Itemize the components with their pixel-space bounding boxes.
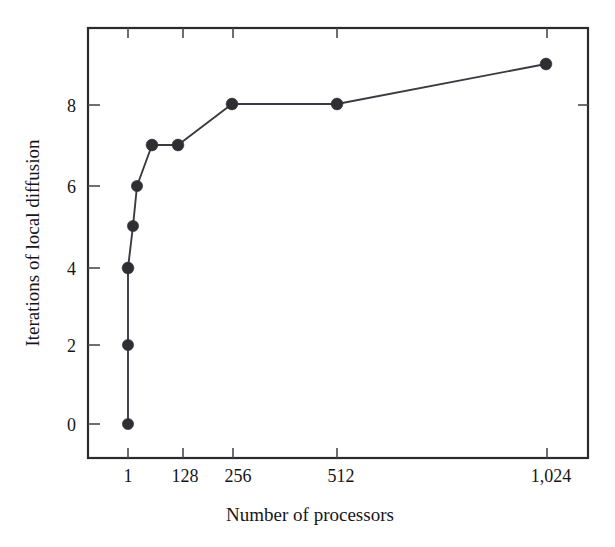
data-point-3 <box>127 220 138 231</box>
y-tick-label-4: 8 <box>67 96 76 116</box>
x-axis-title: Number of processors <box>226 504 394 525</box>
chart-page: 1 128 256 512 1,024 0 2 4 6 8 Number of … <box>0 0 615 547</box>
y-tick-label-2: 4 <box>67 259 76 279</box>
data-point-9 <box>540 58 552 70</box>
x-tick-label-3: 512 <box>328 466 355 486</box>
chart-background <box>0 0 615 547</box>
data-point-6 <box>172 139 184 151</box>
x-tick-label-4: 1,024 <box>531 466 572 486</box>
data-point-5 <box>146 139 158 151</box>
data-point-2 <box>122 262 134 274</box>
data-point-7 <box>226 98 238 110</box>
data-point-0 <box>122 418 133 429</box>
data-point-8 <box>331 98 343 110</box>
x-tick-label-0: 1 <box>124 466 133 486</box>
data-point-4 <box>131 180 142 191</box>
y-axis-title: Iterations of local diffusion <box>22 139 43 347</box>
y-tick-label-0: 0 <box>67 415 76 435</box>
y-tick-label-3: 6 <box>67 177 76 197</box>
line-chart: 1 128 256 512 1,024 0 2 4 6 8 Number of … <box>0 0 615 547</box>
y-tick-label-1: 2 <box>67 336 76 356</box>
x-tick-label-1: 128 <box>172 466 199 486</box>
x-tick-label-2: 256 <box>225 466 252 486</box>
data-point-1 <box>122 339 133 350</box>
